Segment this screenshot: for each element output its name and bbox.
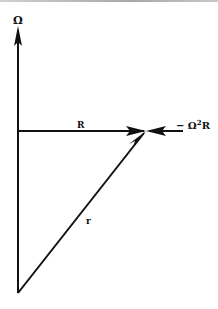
centripetal-label: − Ω2R — [176, 118, 211, 131]
vector-diagram: Ω R − Ω2R r — [0, 0, 218, 309]
r-vector — [18, 131, 146, 293]
omega-label: Ω — [13, 14, 23, 27]
r-label: r — [86, 216, 91, 226]
diagram-canvas: Ω R − Ω2R r — [0, 0, 218, 309]
R-label: R — [77, 120, 85, 130]
omega-vector — [14, 26, 22, 293]
